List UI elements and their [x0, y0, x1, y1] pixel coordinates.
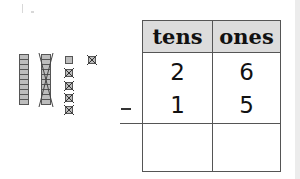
answer-ones-cell[interactable]: [213, 135, 280, 161]
ones-cube: [65, 56, 73, 64]
place-value-table: tens ones 2 6 1 5: [142, 20, 281, 172]
cross-out-icon: [64, 105, 74, 115]
answer-tens-cell[interactable]: [143, 135, 212, 161]
subtrahend-ones: 5: [213, 92, 280, 118]
subtrahend-tens: 1: [143, 92, 212, 118]
minus-sign: [121, 108, 131, 110]
page-edge: [295, 0, 300, 179]
answer-line: [120, 123, 281, 124]
minuend-tens: 2: [143, 59, 212, 85]
header-ones: ones: [213, 21, 280, 52]
cross-out-icon: [38, 52, 54, 108]
cross-out-icon: [64, 68, 74, 78]
scan-mark: [22, 4, 23, 13]
header-tens: tens: [143, 21, 212, 52]
cross-out-icon: [64, 81, 74, 91]
tens-rod: [19, 54, 29, 105]
scan-mark: [31, 11, 34, 13]
cross-out-icon: [64, 93, 74, 103]
minuend-ones: 6: [213, 59, 280, 85]
cross-out-icon: [87, 55, 97, 65]
